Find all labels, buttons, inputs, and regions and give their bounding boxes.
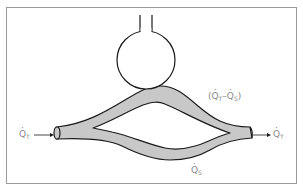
paren-close: ) <box>238 91 242 101</box>
label-symbol: Q <box>19 130 26 139</box>
label-lower-branch-qs: QS <box>191 166 202 176</box>
shunt-diagram <box>0 0 303 188</box>
label-upper-branch: (QT–QS) <box>208 92 241 102</box>
vessel-inlet-opening <box>54 127 60 139</box>
label-symbol: Q <box>212 92 219 101</box>
label-subscript: T <box>280 133 284 140</box>
label-subscript: S <box>198 169 202 176</box>
label-symbol: Q <box>273 130 280 139</box>
label-symbol: Q <box>227 92 234 101</box>
label-outflow-qt: QT <box>273 130 284 140</box>
label-subscript: T <box>26 133 30 140</box>
airway-junction-mask <box>141 28 152 33</box>
alveolus <box>117 31 175 89</box>
label-symbol: Q <box>191 166 198 175</box>
label-inflow-qt: QT <box>19 130 30 140</box>
